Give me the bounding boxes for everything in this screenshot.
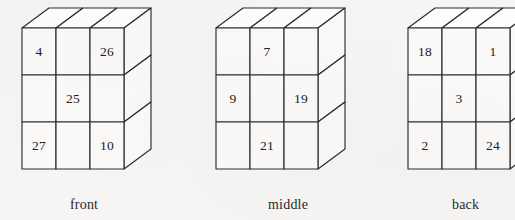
block-caption-back: back [452,197,479,213]
block-caption-middle: middle [268,197,308,213]
cube-front-face-back-r1c0 [408,75,442,122]
block-caption-front: front [70,197,98,213]
cube-front-face-back-r1c2 [476,75,510,122]
cube-front-face-back-r0c1 [442,28,476,75]
cube-front-face-back-r2c1 [442,122,476,169]
cube-number-back-r1c1: 3 [456,91,463,106]
cube-puzzle-figure: 4262527107919211813224 frontmiddleback [0,0,515,220]
cube-number-back-r2c2: 24 [486,138,500,153]
cube-number-back-r0c0: 18 [418,44,432,59]
cube-number-back-r0c2: 1 [490,44,497,59]
cube-number-back-r2c0: 2 [422,138,429,153]
cube-block-back: 1813224 [0,0,515,220]
